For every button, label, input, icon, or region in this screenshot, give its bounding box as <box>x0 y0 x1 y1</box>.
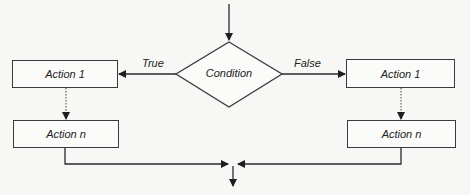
true-label: True <box>142 57 164 69</box>
right-merge-arrow <box>238 148 401 164</box>
left-action-n-label: Action n <box>46 128 86 140</box>
left-action-n-box: Action n <box>13 120 119 148</box>
left-merge-arrow <box>65 148 228 164</box>
right-action-1-label: Action 1 <box>381 68 421 80</box>
left-action-1-label: Action 1 <box>45 68 85 80</box>
right-action-1-box: Action 1 <box>346 59 455 88</box>
connectors-layer <box>0 0 470 195</box>
flowchart-canvas: Condition True False Action 1 Action n A… <box>0 0 470 195</box>
right-action-n-box: Action n <box>347 120 456 148</box>
false-label: False <box>294 57 321 69</box>
right-action-n-label: Action n <box>382 128 422 140</box>
decision-label: Condition <box>189 67 269 79</box>
left-action-1-box: Action 1 <box>12 60 118 88</box>
